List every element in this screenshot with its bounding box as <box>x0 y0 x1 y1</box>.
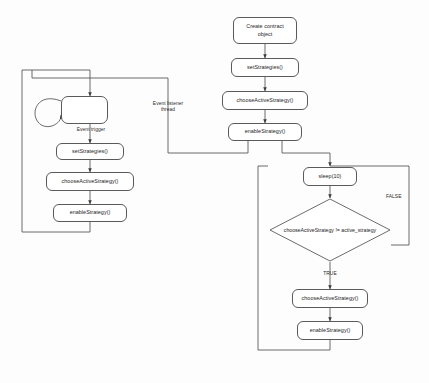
node-choose-active-left[interactable]: chooseActiveStrategy() <box>46 172 134 191</box>
node-set-strategies-main[interactable]: setStrategies() <box>231 58 299 77</box>
edge-label-true: TRUE <box>314 271 346 277</box>
node-choose-active-loop-label: chooseActiveStrategy() <box>302 295 359 302</box>
edge-enable-to-listener <box>168 78 248 153</box>
flowchart-connectors <box>0 0 429 383</box>
node-enable-strategy-main-label: enableStrategy() <box>245 128 286 135</box>
edge-label-false: FALSE <box>386 194 408 200</box>
node-choose-active-main[interactable]: chooseActiveStrategy() <box>222 91 308 110</box>
edge-label-event-listener-thread: Event listener thread <box>140 101 196 114</box>
node-choose-active-left-label: chooseActiveStrategy() <box>62 178 119 185</box>
node-event-trigger-box[interactable] <box>61 96 108 124</box>
flowchart-canvas: Create contract object setStrategies() c… <box>0 0 429 383</box>
node-set-strategies-left-label: setStrategies() <box>72 148 108 155</box>
node-set-strategies-main-label: setStrategies() <box>247 64 283 71</box>
node-sleep[interactable]: sleep(10) <box>303 167 357 186</box>
node-enable-strategy-loop-label: enableStrategy() <box>310 327 351 334</box>
edge-listener-into-trigger <box>32 70 90 96</box>
edge-enable-to-sleep <box>282 141 330 166</box>
node-enable-strategy-left[interactable]: enableStrategy() <box>53 204 127 222</box>
decision-diamond-label: chooseActiveStrategy != active_strategy <box>269 227 391 233</box>
edge-listener-up-left <box>32 70 168 78</box>
node-choose-active-loop[interactable]: chooseActiveStrategy() <box>292 289 368 308</box>
node-enable-strategy-main[interactable]: enableStrategy() <box>228 123 302 141</box>
edge-label-event-trigger: Event trigger <box>60 127 122 133</box>
node-enable-strategy-loop[interactable]: enableStrategy() <box>297 321 363 340</box>
node-set-strategies-left[interactable]: setStrategies() <box>56 143 124 160</box>
node-create-contract-label: Create contract object <box>246 23 284 38</box>
node-create-contract[interactable]: Create contract object <box>233 17 297 44</box>
node-choose-active-main-label: chooseActiveStrategy() <box>237 97 294 104</box>
node-enable-strategy-left-label: enableStrategy() <box>70 209 111 216</box>
node-sleep-label: sleep(10) <box>319 173 342 180</box>
edge-self-loop <box>35 99 61 127</box>
